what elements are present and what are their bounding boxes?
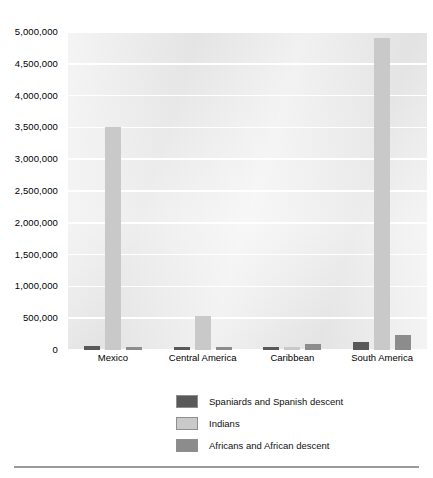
chart-area: 0500,0001,000,0001,500,0002,000,0002,500… — [0, 18, 433, 368]
y-tick-label: 4,500,000 — [15, 59, 58, 69]
y-tick-label: 5,000,000 — [15, 27, 58, 37]
y-axis: 0500,0001,000,0001,500,0002,000,0002,500… — [0, 18, 64, 368]
legend-item: Spaniards and Spanish descent — [0, 390, 433, 412]
legend-item: Africans and African descent — [0, 434, 433, 456]
legend-swatch-icon — [176, 417, 198, 430]
bar — [105, 127, 121, 350]
x-tick-label: South America — [351, 352, 413, 364]
y-tick-label: 1,500,000 — [15, 250, 58, 260]
x-tick-label: Caribbean — [270, 352, 314, 364]
legend-label: Spaniards and Spanish descent — [209, 396, 343, 407]
bar — [263, 347, 279, 350]
y-tick-label: 2,000,000 — [15, 218, 58, 228]
bar — [174, 347, 190, 350]
legend-swatch-icon — [176, 395, 198, 408]
population-bar-chart-figure: 0500,0001,000,0001,500,0002,000,0002,500… — [0, 0, 433, 478]
legend-label: Indians — [209, 418, 240, 429]
y-tick-label: 0 — [53, 345, 58, 355]
bars-layer — [68, 32, 427, 350]
bar — [216, 347, 232, 350]
bar — [395, 335, 411, 350]
footer-divider — [14, 466, 419, 468]
bar — [305, 344, 321, 350]
y-tick-label: 3,500,000 — [15, 122, 58, 132]
bar — [126, 347, 142, 350]
legend-item: Indians — [0, 412, 433, 434]
x-axis: MexicoCentral AmericaCaribbeanSouth Amer… — [68, 352, 427, 368]
y-tick-label: 3,000,000 — [15, 154, 58, 164]
legend-label: Africans and African descent — [209, 440, 329, 451]
bar — [374, 38, 390, 350]
y-tick-label: 1,000,000 — [15, 281, 58, 291]
chart-legend: Spaniards and Spanish descentIndiansAfri… — [0, 390, 433, 456]
bar — [84, 346, 100, 350]
x-tick-label: Central America — [169, 352, 237, 364]
bar — [284, 347, 300, 350]
x-tick-label: Mexico — [98, 352, 128, 364]
plot-area — [68, 32, 427, 350]
y-tick-label: 500,000 — [23, 313, 58, 323]
y-tick-label: 4,000,000 — [15, 91, 58, 101]
bar — [353, 342, 369, 350]
bar — [195, 316, 211, 350]
y-tick-label: 2,500,000 — [15, 186, 58, 196]
legend-swatch-icon — [176, 439, 198, 452]
